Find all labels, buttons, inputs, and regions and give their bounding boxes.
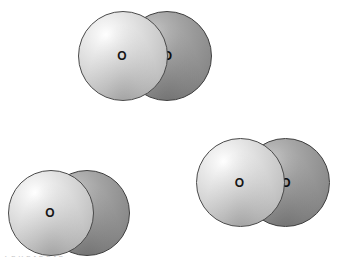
cropped-caption-text: T e h e t e e t e xyxy=(3,256,63,259)
atom-label: O xyxy=(195,177,284,189)
atom-label: O xyxy=(7,207,93,219)
cropped-caption-artifact: T e h e t e e t e xyxy=(0,256,342,265)
atom-oxygen-front: O xyxy=(78,11,168,101)
atom-oxygen-front: O xyxy=(196,138,285,227)
atom-oxygen-front: O xyxy=(8,170,94,256)
figure-canvas: O O O O O O T e h e t e e t e xyxy=(0,0,342,265)
atom-label: O xyxy=(77,50,167,62)
